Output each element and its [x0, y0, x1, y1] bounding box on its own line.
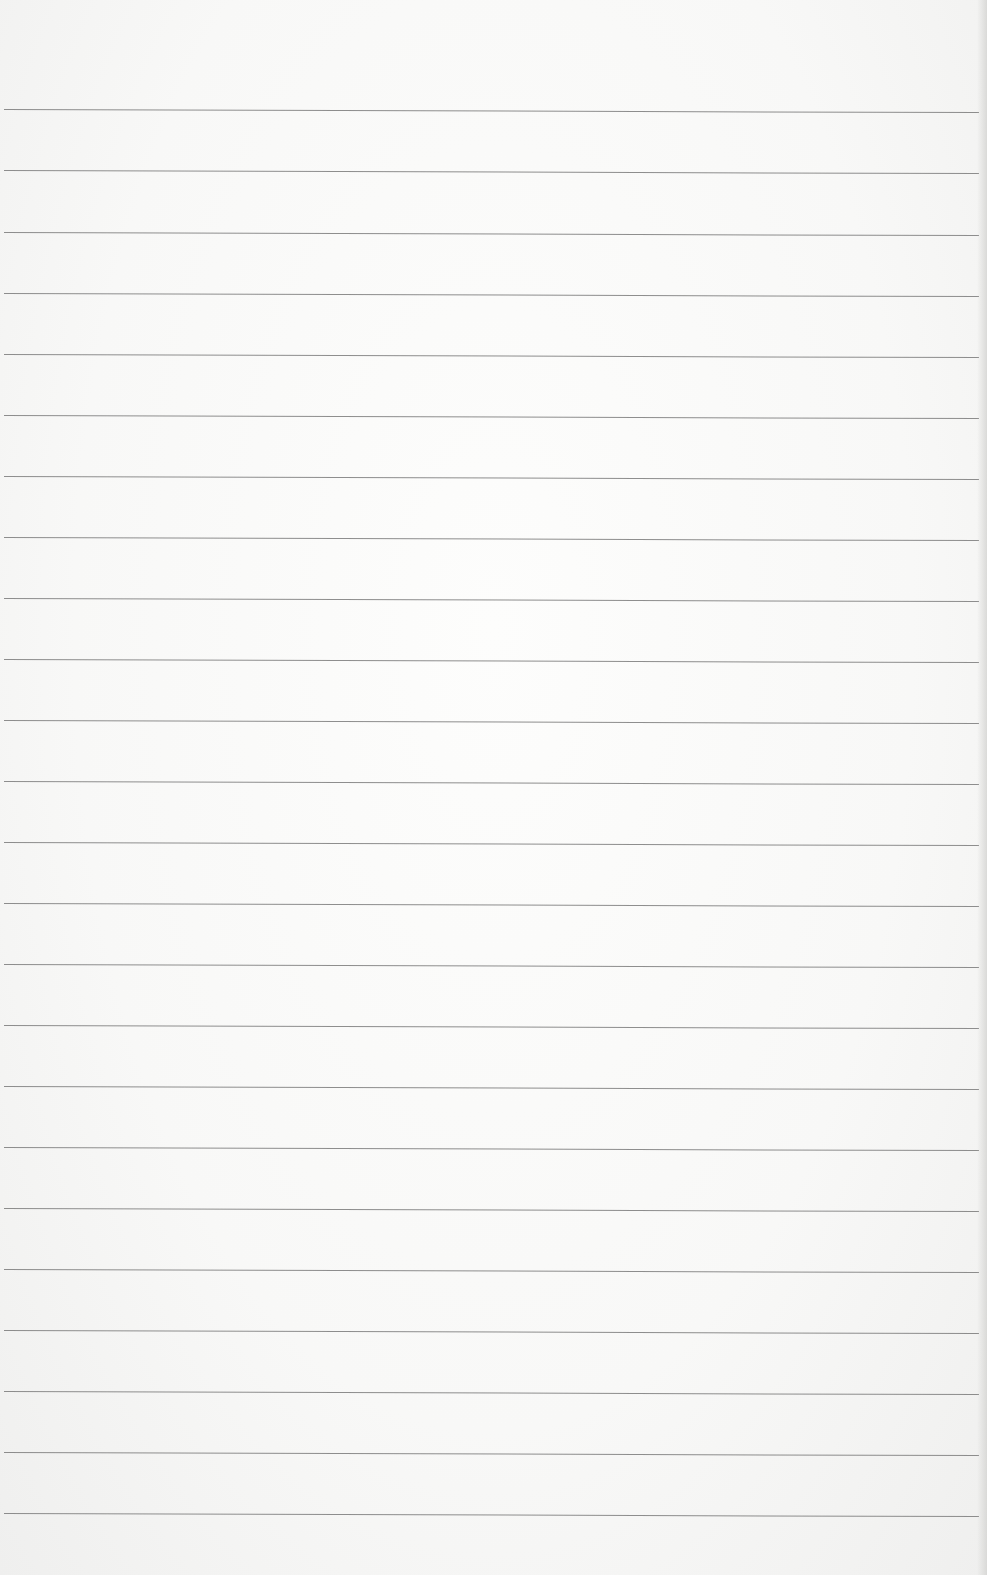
- ruled-line: [4, 781, 979, 785]
- ruled-line: [4, 1452, 979, 1456]
- paper-edge-shadow: [977, 0, 987, 1575]
- ruled-line: [4, 354, 979, 358]
- ruled-line: [4, 964, 979, 968]
- ruled-line: [4, 720, 979, 724]
- lined-paper-sheet: [0, 0, 987, 1575]
- ruled-line: [4, 1147, 979, 1151]
- ruled-line: [4, 842, 979, 846]
- ruled-line: [4, 109, 979, 113]
- ruled-line: [4, 293, 979, 297]
- ruled-line: [4, 170, 979, 174]
- ruled-line: [4, 1391, 979, 1395]
- ruled-line: [4, 415, 979, 419]
- ruled-line: [4, 1025, 979, 1029]
- ruled-line: [4, 232, 979, 236]
- ruled-line: [4, 598, 979, 602]
- ruled-line: [4, 476, 979, 480]
- ruled-line: [4, 1269, 979, 1273]
- ruled-line: [4, 903, 979, 907]
- ruled-line: [4, 1086, 979, 1090]
- ruled-line: [4, 1330, 979, 1334]
- ruled-line: [4, 1513, 979, 1517]
- ruled-line: [4, 1208, 979, 1212]
- ruled-line: [4, 537, 979, 541]
- ruled-line: [4, 659, 979, 663]
